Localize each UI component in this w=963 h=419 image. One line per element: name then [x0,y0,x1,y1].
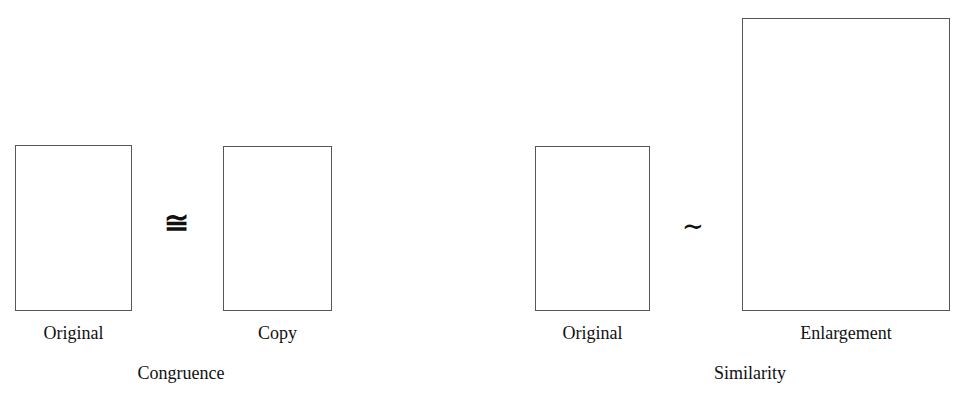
label-original-congruence: Original [15,324,132,342]
congruence-similarity-figure: ≅ Original Copy Congruence ∼ Original En… [0,0,963,419]
rectangle-original-similarity [535,146,650,311]
label-enlargement: Enlargement [742,324,950,342]
label-copy: Copy [223,324,332,342]
caption-congruence: Congruence [111,364,251,382]
congruent-to-icon: ≅ [152,208,200,238]
rectangle-original-congruence [15,145,132,311]
rectangle-enlargement [742,18,950,311]
label-original-similarity: Original [535,324,650,342]
rectangle-copy [223,146,332,311]
caption-similarity: Similarity [680,364,820,382]
similar-to-icon: ∼ [669,214,717,240]
